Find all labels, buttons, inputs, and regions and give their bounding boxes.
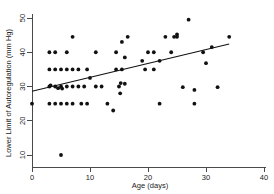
data-point [181, 85, 185, 89]
data-point [114, 50, 118, 54]
data-point [140, 59, 144, 63]
data-point [123, 82, 127, 86]
data-point [53, 67, 57, 71]
chart-canvas: 1020304050 010203040 Lower Limit of Auto… [0, 0, 274, 194]
data-point [59, 102, 63, 106]
x-tick-label: 0 [30, 173, 34, 182]
x-tick-label: 30 [202, 173, 210, 182]
data-point [71, 67, 75, 71]
y-tick-label: 10 [18, 151, 27, 159]
data-point [119, 81, 123, 85]
data-point [158, 102, 162, 106]
x-tick-label: 40 [260, 173, 268, 182]
data-point [65, 67, 69, 71]
x-axis-ticks: 010203040 [30, 167, 268, 182]
y-tick-label: 20 [18, 117, 27, 125]
data-point [77, 85, 81, 89]
data-point [60, 87, 64, 91]
y-axis-ticks: 1020304050 [18, 14, 32, 159]
data-point [120, 40, 124, 44]
data-point [193, 88, 197, 92]
data-point [204, 61, 208, 65]
data-point [193, 102, 197, 106]
data-point [143, 67, 147, 71]
data-point [227, 35, 231, 39]
data-point [71, 102, 75, 106]
data-point [82, 85, 86, 89]
data-point [216, 85, 220, 89]
data-point [111, 109, 115, 113]
data-point [79, 102, 83, 106]
data-point [146, 50, 150, 54]
data-point [53, 50, 57, 54]
data-point [152, 50, 156, 54]
data-point [175, 33, 179, 37]
data-point [85, 102, 89, 106]
data-point [94, 50, 98, 54]
y-axis-title: Lower Limit of Autoregulation (mm Hg) [4, 29, 13, 157]
data-point [94, 85, 98, 89]
data-point [117, 85, 121, 89]
data-points [30, 18, 231, 157]
data-point [123, 55, 127, 59]
data-point [152, 67, 156, 71]
x-axis-title: Age (days) [132, 181, 169, 190]
data-point [126, 35, 130, 39]
data-point [59, 67, 63, 71]
data-point [164, 35, 168, 39]
data-point [169, 50, 173, 54]
data-point [77, 67, 81, 71]
data-point [65, 85, 69, 89]
x-tick-label: 10 [86, 173, 94, 182]
data-point [48, 50, 52, 54]
data-point [30, 102, 34, 106]
data-point [71, 35, 75, 39]
data-point [85, 67, 89, 71]
data-point [118, 91, 122, 95]
data-point [65, 102, 69, 106]
data-point [48, 67, 52, 71]
data-point [106, 102, 110, 106]
data-point [65, 50, 69, 54]
data-point [59, 153, 63, 157]
y-tick-label: 30 [18, 82, 27, 90]
data-point [53, 102, 57, 106]
y-tick-label: 40 [18, 48, 27, 56]
scatter-plot-figure: 1020304050 010203040 Lower Limit of Auto… [0, 0, 274, 194]
data-point [48, 102, 52, 106]
y-tick-label: 50 [18, 14, 27, 22]
data-point [71, 85, 75, 89]
data-point [100, 85, 104, 89]
data-point [187, 18, 191, 22]
